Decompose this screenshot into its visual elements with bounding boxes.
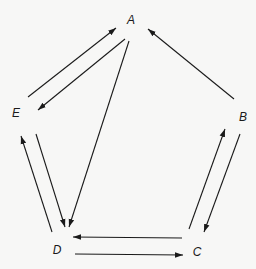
node-label-c: C xyxy=(193,245,202,259)
nodes-group: ABCDE xyxy=(12,13,247,259)
edge-a-to-e xyxy=(38,39,125,110)
edge-d-to-c xyxy=(75,254,183,255)
edge-b-to-a xyxy=(148,29,234,99)
node-label-e: E xyxy=(12,106,21,120)
graph-diagram: ABCDE xyxy=(0,0,256,269)
edge-d-to-e xyxy=(21,136,52,232)
edge-e-to-d xyxy=(36,134,65,227)
edges-group xyxy=(21,28,240,255)
edge-b-to-c xyxy=(204,134,240,232)
edge-a-to-d xyxy=(69,41,129,227)
node-label-a: A xyxy=(126,13,135,27)
edge-c-to-b xyxy=(189,129,225,229)
node-label-b: B xyxy=(239,110,247,124)
node-label-d: D xyxy=(53,243,62,257)
edge-c-to-d xyxy=(73,237,182,238)
edge-e-to-a xyxy=(28,28,116,97)
